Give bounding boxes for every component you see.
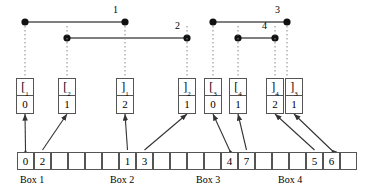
array-cell-8[interactable] [153, 152, 170, 170]
node-value-cell-n3: 2 [117, 96, 133, 113]
array-cell-6[interactable]: 1 [119, 152, 136, 170]
bracket-subscript: 4 [238, 90, 242, 98]
array-cell-3[interactable] [68, 152, 85, 170]
node-value-cell-n1: 0 [17, 96, 33, 113]
node-value-cell-n5: 0 [205, 96, 221, 113]
arrow-n2-to-cell-1 [43, 114, 68, 150]
node-box-n6[interactable]: [41 [229, 78, 247, 114]
node-symbol-cell-n3: ]1 [117, 79, 133, 96]
node-value-cell-n4: 1 [179, 96, 195, 113]
array-cell-16[interactable] [289, 152, 306, 170]
array-cell-17[interactable]: 5 [306, 152, 323, 170]
node-value-cell-n8: 1 [286, 96, 302, 113]
node-symbol-cell-n8: ]3 [286, 79, 302, 96]
array-cell-15[interactable] [272, 152, 289, 170]
node-box-n7[interactable]: ]42 [266, 78, 284, 114]
interval-left-dot-1 [21, 18, 28, 25]
interval-left-dot-3 [209, 18, 216, 25]
array-cell-19[interactable] [340, 152, 357, 170]
arrow-n8-to-cell-18 [294, 114, 332, 150]
node-symbol-cell-n1: [1 [17, 79, 33, 96]
node-symbol-cell-n6: [4 [230, 79, 246, 96]
array-cell-1[interactable]: 2 [34, 152, 51, 170]
node-box-n1[interactable]: [10 [16, 78, 34, 114]
figure-canvas: 1234 [10[21]12]21[30[41]42]31 02134756 B… [0, 0, 368, 193]
interval-label-4: 4 [262, 20, 267, 31]
node-box-n4[interactable]: ]21 [178, 78, 196, 114]
node-value-cell-n7: 2 [267, 96, 283, 113]
node-value-cell-n6: 1 [230, 96, 246, 113]
bracket-subscript: 2 [67, 90, 71, 98]
arrow-n3-to-cell-6 [125, 114, 128, 150]
node-to-array-arrows-group [25, 114, 332, 150]
interval-right-dot-1 [121, 18, 128, 25]
node-box-n3[interactable]: ]12 [116, 78, 134, 114]
array-cell-18[interactable]: 6 [323, 152, 340, 170]
bracket-subscript: 3 [294, 90, 298, 98]
node-symbol-cell-n7: ]4 [267, 79, 283, 96]
box-label-1: Box 1 [20, 174, 44, 185]
box-label-3: Box 3 [196, 174, 220, 185]
arrow-n7-to-cell-17 [275, 114, 315, 150]
bracket-subscript: 3 [213, 90, 217, 98]
bracket-subscript: 1 [25, 90, 29, 98]
array-cell-7[interactable]: 3 [136, 152, 153, 170]
array-cell-11[interactable] [204, 152, 221, 170]
interval-label-1: 1 [113, 4, 118, 15]
node-symbol-cell-n2: [2 [59, 79, 75, 96]
array-cell-5[interactable] [102, 152, 119, 170]
arrow-n6-to-cell-13 [238, 114, 247, 150]
array-cell-0[interactable]: 0 [17, 152, 34, 170]
dotted-connector-group [25, 26, 287, 76]
interval-bars-group [21, 18, 290, 41]
array-cell-2[interactable] [51, 152, 68, 170]
node-box-n8[interactable]: ]31 [285, 78, 303, 114]
node-box-n2[interactable]: [21 [58, 78, 76, 114]
array-cell-12[interactable]: 4 [221, 152, 238, 170]
array-cell-10[interactable] [187, 152, 204, 170]
bracket-subscript: 4 [275, 90, 279, 98]
array-cell-14[interactable] [255, 152, 272, 170]
interval-right-dot-3 [283, 18, 290, 25]
interval-label-2: 2 [175, 20, 180, 31]
arrow-n1-to-cell-0 [25, 114, 26, 150]
box-label-2: Box 2 [110, 174, 134, 185]
array-cell-13[interactable]: 7 [238, 152, 255, 170]
box-label-4: Box 4 [278, 174, 302, 185]
node-box-n5[interactable]: [30 [204, 78, 222, 114]
array-cell-9[interactable] [170, 152, 187, 170]
bracket-subscript: 1 [125, 90, 129, 98]
arrow-n4-to-cell-7 [145, 114, 188, 150]
arrow-n5-to-cell-12 [213, 114, 230, 150]
node-symbol-cell-n4: ]2 [179, 79, 195, 96]
array-cell-4[interactable] [85, 152, 102, 170]
node-symbol-cell-n5: [3 [205, 79, 221, 96]
interval-label-3: 3 [275, 4, 280, 15]
node-value-cell-n2: 1 [59, 96, 75, 113]
bracket-subscript: 2 [187, 90, 191, 98]
